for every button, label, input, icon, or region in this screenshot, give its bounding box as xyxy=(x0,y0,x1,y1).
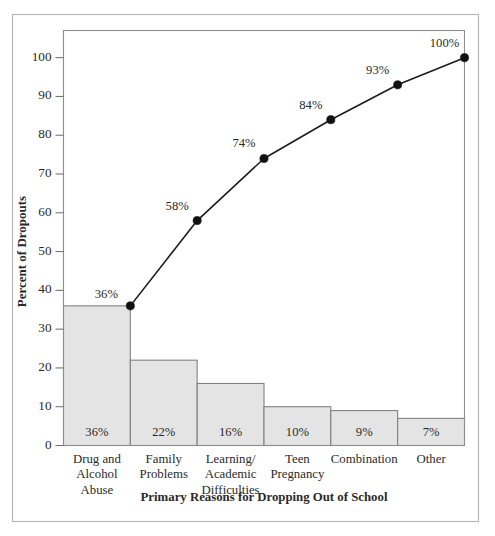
y-tick-label-10: 10 xyxy=(38,398,52,413)
category-label-1-line-3: Abuse xyxy=(81,483,114,497)
category-label-1-line-1: Drug and xyxy=(73,452,122,466)
y-tick-label-80: 80 xyxy=(38,126,52,141)
y-tick-label-20: 20 xyxy=(38,359,52,374)
y-tick-label-0: 0 xyxy=(45,437,52,452)
cumulative-label-1: 36% xyxy=(95,287,119,301)
bar-value-label-5: 9% xyxy=(356,425,373,439)
category-label-5-line-1: Combination xyxy=(331,452,398,466)
y-tick-label-60: 60 xyxy=(38,204,52,219)
category-label-2-line-2: Problems xyxy=(140,467,188,481)
bar-value-label-2: 22% xyxy=(152,425,176,439)
category-label-3-line-1: Learning/ xyxy=(206,452,256,466)
cumulative-marker-2 xyxy=(193,216,201,224)
bar-value-label-3: 16% xyxy=(219,425,243,439)
cumulative-marker-6 xyxy=(460,54,468,62)
y-tick-label-90: 90 xyxy=(38,87,52,102)
cumulative-label-6: 100% xyxy=(430,36,460,50)
category-label-2-line-1: Family xyxy=(146,452,183,466)
bar-value-label-1: 36% xyxy=(85,425,109,439)
y-tick-label-100: 100 xyxy=(32,49,52,64)
cumulative-label-3: 74% xyxy=(232,136,256,150)
bar-value-label-6: 7% xyxy=(423,425,440,439)
bar-value-label-4: 10% xyxy=(286,425,310,439)
y-tick-label-40: 40 xyxy=(38,281,52,296)
cumulative-marker-1 xyxy=(126,302,134,310)
cumulative-label-4: 84% xyxy=(299,98,323,112)
x-axis-title: Primary Reasons for Dropping Out of Scho… xyxy=(141,490,388,504)
category-label-3-line-2: Academic xyxy=(205,467,257,481)
pareto-chart-figure: 0102030405060708090100Percent of Dropout… xyxy=(0,0,495,536)
y-tick-label-70: 70 xyxy=(38,165,52,180)
cumulative-marker-4 xyxy=(327,116,335,124)
y-tick-label-50: 50 xyxy=(38,243,52,258)
y-axis-title: Percent of Dropouts xyxy=(14,196,29,307)
category-label-4-line-2: Pregnancy xyxy=(270,467,325,481)
y-tick-label-30: 30 xyxy=(38,320,52,335)
category-label-1-line-2: Alcohol xyxy=(76,467,118,481)
cumulative-label-5: 93% xyxy=(366,63,390,77)
cumulative-label-2: 58% xyxy=(166,199,190,213)
cumulative-marker-5 xyxy=(394,81,402,89)
category-label-4-line-1: Teen xyxy=(285,452,310,466)
category-label-6-line-1: Other xyxy=(417,452,447,466)
cumulative-marker-3 xyxy=(260,154,268,162)
